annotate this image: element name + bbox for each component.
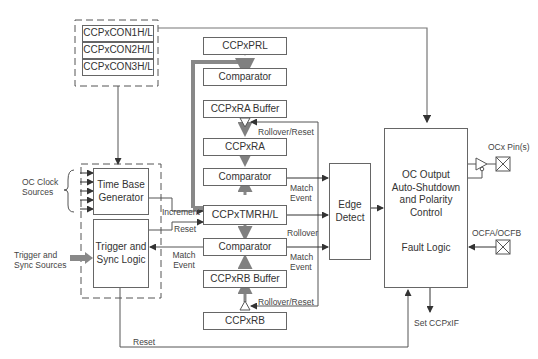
comparator-b-block: Comparator xyxy=(203,238,287,256)
ccpxcon1-register: CCPxCON1H/L xyxy=(82,25,154,42)
ccpxcon3-register: CCPxCON3H/L xyxy=(82,59,154,76)
ccpxrb-block: CCPxRB xyxy=(203,312,287,330)
set-ccpxif-label: Set CCPxIF xyxy=(414,318,459,328)
edge-detect-block: Edge Detect xyxy=(329,163,371,260)
ccpxra-buffer-block: CCPxRA Buffer xyxy=(203,100,287,118)
reset-label: Reset xyxy=(174,224,196,234)
comparator-top-block: Comparator xyxy=(203,68,287,86)
rollover-reset-b-label: Rollover/Reset xyxy=(258,297,314,307)
time-base-generator-block: Time Base Generator xyxy=(93,168,149,215)
ccpxcon2-register: CCPxCON2H/L xyxy=(82,42,154,59)
comparator-a-block: Comparator xyxy=(203,168,287,186)
oc-output-label: OC Output Auto-Shutdown and Polarity Con… xyxy=(390,169,462,219)
match-event-b-label: Match Event xyxy=(290,252,320,272)
ccpxra-block: CCPxRA xyxy=(203,138,287,156)
trigger-sync-logic-block: Trigger and Sync Logic xyxy=(93,219,149,288)
fault-logic-label: Fault Logic xyxy=(384,242,468,254)
ccpxprl-block: CCPxPRL xyxy=(203,37,287,55)
match-event-left-label: Match Event xyxy=(168,250,200,270)
rollover-label: Rollover xyxy=(287,228,318,238)
trigger-sync-sources-label: Trigger and Sync Sources xyxy=(14,250,69,270)
ocfa-ocfb-label: OCFA/OCFB xyxy=(472,228,521,238)
rollover-reset-a-label: Rollover/Reset xyxy=(258,127,314,137)
reset-bottom-label: Reset xyxy=(133,337,155,347)
ocx-pins-label: OCx Pin(s) xyxy=(488,142,530,152)
match-event-a-label: Match Event xyxy=(290,183,320,203)
increment-label: Increment xyxy=(162,207,200,217)
ccpxtmr-block: CCPxTMRH/L xyxy=(203,205,287,225)
ccpxrb-buffer-block: CCPxRB Buffer xyxy=(203,270,287,288)
oc-clock-sources-label: OC Clock Sources xyxy=(22,177,62,197)
oc-output-control-block: OC Output Auto-Shutdown and Polarity Con… xyxy=(384,128,468,288)
